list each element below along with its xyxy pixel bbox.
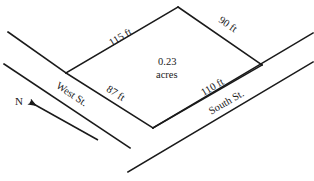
compass-arrow [30,102,98,140]
label-compass-north: N [15,95,23,107]
north-arrow-line [30,102,98,140]
parcel-side-northeast [178,7,262,65]
label-side-115ft: 115 ft [107,26,134,48]
west-street-upper-edge [8,32,66,73]
diagram-canvas: 115 ft 90 ft 87 ft 110 ft 0.23 acres Wes… [0,0,314,181]
label-side-90ft: 90 ft [217,14,239,34]
label-parcel-area-value: 0.23 [158,56,176,67]
label-parcel-area-unit: acres [156,69,178,80]
parcel-survey-diagram: 115 ft 90 ft 87 ft 110 ft 0.23 acres Wes… [0,0,314,181]
